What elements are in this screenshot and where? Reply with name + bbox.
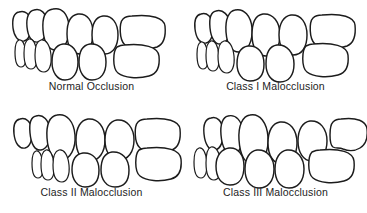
lower-first-premolar	[72, 153, 99, 187]
lower-arch	[32, 147, 181, 187]
normal-occlusion-diagram	[0, 0, 183, 84]
upper-first-molar	[330, 118, 367, 150]
occlusion-figure: Normal Occlusion Class I Malocclusion	[0, 0, 367, 213]
panel-class-i-malocclusion: Class I Malocclusion	[184, 0, 367, 106]
lower-arch	[15, 39, 159, 80]
lower-lateral-incisor	[206, 41, 219, 71]
caption-class-iii-malocclusion: Class III Malocclusion	[184, 186, 367, 199]
lower-first-premolar	[237, 46, 264, 81]
lower-canine	[216, 148, 244, 185]
lower-first-premolar	[245, 150, 274, 188]
lower-second-premolar	[101, 152, 129, 187]
class-iii-malocclusion-diagram	[184, 106, 367, 190]
caption-class-i-malocclusion: Class I Malocclusion	[184, 80, 367, 93]
lower-arch	[197, 41, 348, 82]
lower-canine	[218, 41, 234, 73]
lower-lateral-incisor	[41, 150, 54, 180]
lower-first-molar	[309, 149, 354, 182]
lower-canine	[35, 40, 51, 72]
panel-class-iii-malocclusion: Class III Malocclusion	[184, 106, 367, 212]
lower-first-premolar	[52, 44, 78, 80]
lower-first-molar	[136, 147, 181, 180]
class-ii-malocclusion-diagram	[0, 106, 183, 190]
lower-first-molar	[303, 43, 348, 76]
panel-normal-occlusion: Normal Occlusion	[0, 0, 183, 106]
caption-class-ii-malocclusion: Class II Malocclusion	[0, 186, 183, 199]
lower-second-premolar	[79, 44, 106, 80]
lower-second-premolar	[266, 45, 294, 82]
panel-class-ii-malocclusion: Class II Malocclusion	[0, 106, 183, 212]
lower-first-molar	[114, 44, 159, 77]
lower-central-incisor	[194, 148, 207, 178]
lower-second-premolar	[275, 150, 304, 188]
lower-canine	[53, 150, 69, 182]
caption-normal-occlusion: Normal Occlusion	[0, 80, 183, 93]
class-i-malocclusion-diagram	[184, 0, 367, 84]
